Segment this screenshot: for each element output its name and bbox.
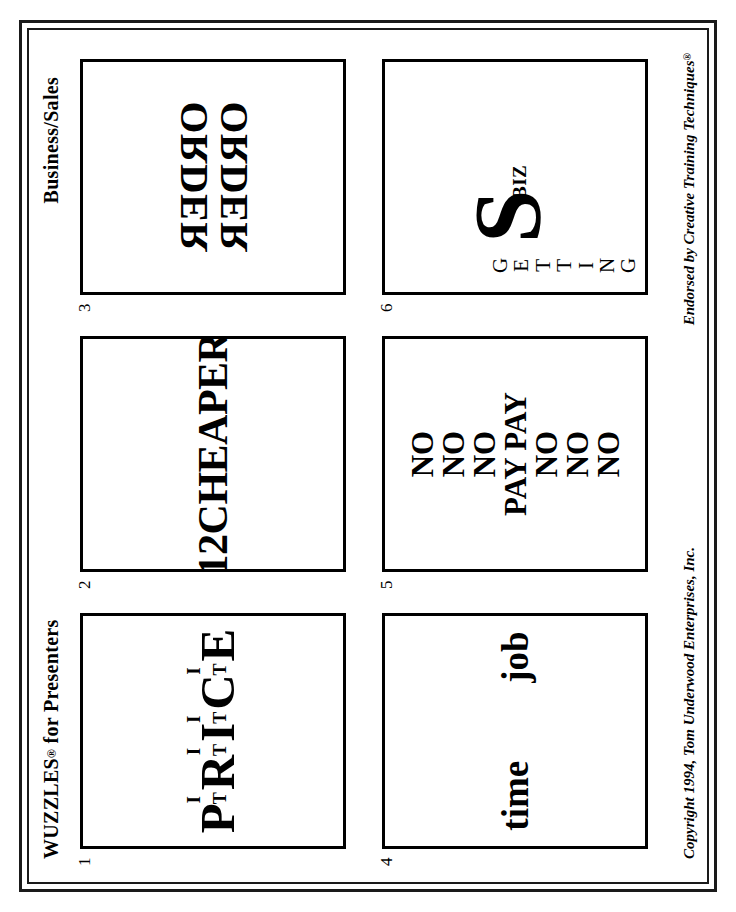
no-pay-line-7: NO <box>593 431 624 478</box>
mirrored-order-line-2: ORDER <box>213 102 253 253</box>
puzzle-box-5[interactable]: NO NO NO PAY PAY NO NO NO <box>382 336 648 572</box>
big-s-letter: S <box>460 190 556 243</box>
price-letter-r: R <box>193 755 242 790</box>
puzzle-number-6: 6 <box>378 304 395 313</box>
price-small-i-2: I <box>185 748 203 755</box>
puzzle-art-mirrored-order: ORDER ORDER <box>173 102 253 253</box>
puzzle-box-3[interactable]: ORDER ORDER <box>80 59 346 295</box>
time-job-word-right: job <box>494 631 537 682</box>
getting-letter-7: G <box>618 257 639 273</box>
price-it-pair-3: I T <box>185 709 234 724</box>
price-small-t-2: T <box>211 744 229 756</box>
puzzle-box-6[interactable]: G E T T I N G S BIZ <box>382 59 648 295</box>
footer-copyright: Copyright 1994, Tom Underwood Enterprise… <box>681 547 698 859</box>
page-border-outer: WUZZLES® for Presenters Business/Sales 1… <box>19 20 717 892</box>
price-small-t-4: T <box>211 663 229 675</box>
getting-letter-6: N <box>597 257 618 273</box>
puzzle-box-2[interactable]: 12CHEAPER <box>80 336 346 572</box>
scanned-page: WUZZLES® for Presenters Business/Sales 1… <box>0 0 736 912</box>
no-pay-line-5: NO <box>531 431 562 478</box>
getting-letter-2: E <box>511 259 532 272</box>
getting-letter-4: T <box>554 259 575 272</box>
page-sheet: WUZZLES® for Presenters Business/Sales 1… <box>34 35 702 877</box>
footer-endorsement-text: Endorsed by Creative Training Techniques <box>681 60 697 325</box>
time-job-word-left: time <box>494 761 537 831</box>
no-pay-line-3: NO <box>469 431 500 478</box>
puzzle-cell-4: 4 time job <box>382 613 648 849</box>
puzzle-art-price: P I T R I T I <box>185 629 242 833</box>
header-title-suffix: for Presenters <box>40 619 62 748</box>
getting-letter-3: T <box>533 259 554 272</box>
puzzle-art-getting-s-biz: G E T T I N G S BIZ <box>440 77 590 277</box>
price-it-pair-2: I T <box>185 741 234 756</box>
getting-letter-5: I <box>576 261 597 269</box>
price-letter-c: C <box>193 674 242 709</box>
rotated-document: WUZZLES® for Presenters Business/Sales 1… <box>19 20 717 892</box>
price-it-pair-1: I T <box>185 789 234 804</box>
puzzle-number-2: 2 <box>76 581 93 590</box>
puzzle-number-5: 5 <box>378 581 395 590</box>
price-small-t-1: T <box>211 792 229 804</box>
registered-mark-icon: ® <box>45 749 59 758</box>
header-title-wuzzles: WUZZLES® for Presenters <box>40 619 63 859</box>
price-small-t-3: T <box>211 712 229 724</box>
puzzle-art-no-pay: NO NO NO PAY PAY NO NO NO <box>407 392 624 516</box>
mirrored-order-line-1: ORDER <box>173 102 213 253</box>
header-title-text: WUZZLES <box>40 758 62 859</box>
puzzle-cell-3: 3 ORDER ORDER <box>80 59 346 295</box>
puzzle-cell-5: 5 NO NO NO PAY PAY NO NO NO <box>382 336 648 572</box>
page-header: WUZZLES® for Presenters Business/Sales <box>40 53 74 859</box>
puzzle-art-12cheaper: 12CHEAPER <box>189 336 237 572</box>
price-letter-e: E <box>193 629 242 662</box>
footer-endorsement: Endorsed by Creative Training Techniques… <box>681 53 698 325</box>
price-letter-p: P <box>193 803 242 833</box>
price-small-i-3: I <box>185 716 203 723</box>
puzzle-box-1[interactable]: P I T R I T I <box>80 613 346 849</box>
no-pay-line-1: NO <box>407 431 438 478</box>
puzzle-cell-2: 2 12CHEAPER <box>80 336 346 572</box>
no-pay-line-2: NO <box>438 431 469 478</box>
puzzle-number-3: 3 <box>76 304 93 313</box>
s-biz-group: S BIZ <box>476 123 572 243</box>
price-small-i-1: I <box>185 796 203 803</box>
puzzle-number-1: 1 <box>76 858 93 867</box>
price-it-pair-4: I T <box>185 660 234 675</box>
puzzle-number-4: 4 <box>378 858 395 867</box>
page-footer: Copyright 1994, Tom Underwood Enterprise… <box>670 53 698 859</box>
price-small-i-4: I <box>185 667 203 674</box>
getting-letter-column: G E T T I N G <box>490 257 640 273</box>
puzzle-art-time-job: time job <box>494 616 537 846</box>
biz-label: BIZ <box>510 165 529 199</box>
price-letter-i: I <box>193 723 242 742</box>
puzzle-cell-6: 6 G E T T I N G <box>382 59 648 295</box>
no-pay-line-6: NO <box>562 431 593 478</box>
header-category: Business/Sales <box>40 53 63 203</box>
puzzle-box-4[interactable]: time job <box>382 613 648 849</box>
puzzle-grid: 1 P I T R I T <box>80 59 660 849</box>
registered-mark-icon-2: ® <box>682 53 693 60</box>
getting-letter-1: G <box>490 257 511 273</box>
puzzle-cell-1: 1 P I T R I T <box>80 613 346 849</box>
no-pay-line-4: PAY PAY <box>500 392 531 516</box>
